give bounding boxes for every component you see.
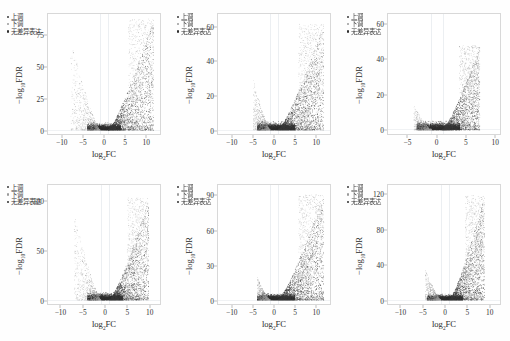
y-axis-tick-mark bbox=[384, 94, 387, 95]
x-axis-tick-label: 0 bbox=[272, 138, 276, 147]
x-axis-tick-mark bbox=[149, 305, 150, 308]
x-axis-tick-label: 10 bbox=[146, 308, 153, 317]
plot-area: 04080120−10−50510 bbox=[387, 184, 501, 306]
y-axis-tick-label: 40 bbox=[377, 261, 384, 270]
x-axis-tick-mark bbox=[436, 135, 437, 138]
scatter-points bbox=[48, 14, 160, 134]
legend-marker-dot-icon bbox=[177, 30, 179, 32]
y-axis-tick-label: 50 bbox=[37, 62, 44, 71]
x-axis-tick-mark bbox=[400, 305, 401, 308]
x-axis-label: log2FC bbox=[217, 149, 331, 161]
plot-area: 0306090−10−50510 bbox=[217, 184, 331, 306]
x-axis-tick-label: −5 bbox=[249, 308, 257, 317]
y-axis-label: −log10FDR bbox=[354, 66, 366, 104]
legend-marker-dot-icon bbox=[7, 193, 9, 195]
legend-marker-dot-icon bbox=[177, 201, 179, 203]
legend-item-down[interactable]: 下调 bbox=[7, 20, 41, 27]
legend-label: 无差异表达 bbox=[11, 198, 41, 205]
y-axis-tick-label: 20 bbox=[377, 90, 384, 99]
plot-frame bbox=[47, 184, 161, 306]
legend-marker-dot-icon bbox=[347, 193, 349, 195]
x-axis-label: log2FC bbox=[387, 149, 501, 161]
x-axis-tick-mark bbox=[82, 305, 83, 308]
x-axis-tick-mark bbox=[231, 305, 232, 308]
volcano-panel: S2 vs S0上调下调无差异表达0306090−10−50510−log10F… bbox=[170, 171, 340, 341]
x-axis-tick-mark bbox=[146, 135, 147, 138]
x-axis-tick-label: −10 bbox=[226, 138, 238, 147]
x-axis-tick-mark bbox=[82, 135, 83, 138]
legend: 上调下调无差异表达 bbox=[177, 184, 211, 206]
legend-label: 下调 bbox=[351, 20, 363, 27]
y-axis-tick-label: 50 bbox=[37, 247, 44, 256]
x-axis-tick-label: −10 bbox=[395, 308, 407, 317]
y-axis-label: −log10FDR bbox=[14, 66, 26, 104]
y-axis-tick-mark bbox=[44, 34, 47, 35]
volcano-panel: T2 vs T0上调下调无差异表达0204060−10−50510−log10F… bbox=[170, 0, 340, 171]
plot-frame bbox=[387, 13, 501, 135]
legend-item-none[interactable]: 无差异表达 bbox=[7, 198, 41, 205]
x-axis-label: log2FC bbox=[47, 149, 161, 161]
plot-area: 050100−10−50510 bbox=[47, 184, 161, 306]
plot-frame bbox=[47, 13, 161, 135]
x-axis-tick-label: 5 bbox=[123, 138, 127, 147]
x-axis-tick-label: 0 bbox=[272, 308, 276, 317]
x-axis-tick-label: −10 bbox=[226, 308, 238, 317]
legend: 上调下调无差异表达 bbox=[347, 184, 381, 206]
x-axis-tick-label: −10 bbox=[55, 308, 67, 317]
x-axis-tick-label: 5 bbox=[466, 308, 470, 317]
y-axis-tick-label: 40 bbox=[377, 55, 384, 64]
x-axis-tick-mark bbox=[274, 305, 275, 308]
legend-item-down[interactable]: 下调 bbox=[177, 20, 211, 27]
legend-label: 无差异表达 bbox=[11, 28, 41, 35]
x-axis-tick-label: 5 bbox=[126, 308, 130, 317]
volcano-panel: T1 vs T0上调下调无差异表达0255075−10−50510−log10F… bbox=[0, 0, 170, 171]
legend-marker-dot-icon bbox=[177, 23, 179, 25]
x-axis-label: log2FC bbox=[387, 319, 501, 331]
x-axis-tick-label: −5 bbox=[419, 308, 427, 317]
legend-marker-dot-icon bbox=[7, 30, 9, 32]
y-axis-tick-mark bbox=[214, 265, 217, 266]
legend-item-none[interactable]: 无差异表达 bbox=[347, 28, 381, 35]
legend-item-none[interactable]: 无差异表达 bbox=[177, 28, 211, 35]
x-axis-label: log2FC bbox=[47, 319, 161, 331]
y-axis-tick-mark bbox=[384, 59, 387, 60]
legend-marker-dot-icon bbox=[177, 16, 179, 18]
y-axis-tick-mark bbox=[44, 66, 47, 67]
x-axis-tick-label: 0 bbox=[443, 308, 447, 317]
x-axis-tick-label: 0 bbox=[103, 308, 107, 317]
x-axis-tick-mark bbox=[295, 135, 296, 138]
y-axis-tick-mark bbox=[214, 61, 217, 62]
x-axis-tick-mark bbox=[252, 305, 253, 308]
legend: 上调下调无差异表达 bbox=[177, 13, 211, 35]
legend-item-up[interactable]: 上调 bbox=[177, 184, 211, 191]
y-axis-tick-mark bbox=[214, 195, 217, 196]
x-axis-tick-mark bbox=[295, 305, 296, 308]
legend-label: 无差异表达 bbox=[351, 28, 381, 35]
legend-label: 上调 bbox=[11, 184, 23, 191]
x-axis-tick-mark bbox=[127, 305, 128, 308]
x-axis-tick-mark bbox=[104, 135, 105, 138]
legend-item-none[interactable]: 无差异表达 bbox=[177, 198, 211, 205]
legend-item-none[interactable]: 无差异表达 bbox=[347, 198, 381, 205]
legend-item-down[interactable]: 下调 bbox=[347, 20, 381, 27]
plot-frame bbox=[217, 13, 331, 135]
legend-label: 下调 bbox=[11, 20, 23, 27]
legend-item-up[interactable]: 上调 bbox=[7, 184, 41, 191]
y-axis-label: −log10FDR bbox=[184, 237, 196, 275]
volcano-panel: S1 vs S0上调下调无差异表达050100−10−50510−log10FD… bbox=[0, 171, 170, 341]
y-axis-tick-label: 80 bbox=[377, 225, 384, 234]
legend-marker-dot-icon bbox=[177, 186, 179, 188]
scatter-points bbox=[388, 14, 500, 134]
scatter-points bbox=[48, 185, 160, 305]
legend-item-none[interactable]: 无差异表达 bbox=[7, 28, 41, 35]
x-axis-tick-label: −5 bbox=[249, 138, 257, 147]
y-axis-tick-mark bbox=[44, 201, 47, 202]
y-axis-tick-mark bbox=[44, 251, 47, 252]
y-axis-label: −log10FDR bbox=[14, 237, 26, 275]
x-axis-tick-label: 0 bbox=[102, 138, 106, 147]
legend-item-up[interactable]: 上调 bbox=[347, 184, 381, 191]
y-axis-tick-mark bbox=[214, 301, 217, 302]
x-axis-tick-mark bbox=[125, 135, 126, 138]
legend: 上调下调无差异表达 bbox=[7, 184, 41, 206]
x-axis-tick-mark bbox=[489, 305, 490, 308]
